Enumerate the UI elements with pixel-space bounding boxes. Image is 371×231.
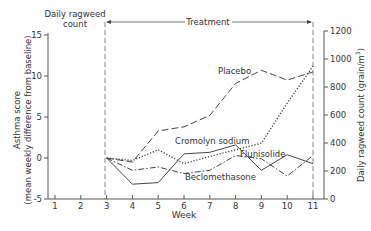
x-tick-label: 4: [130, 201, 135, 211]
ragweed-label-line1: Daily ragweed: [44, 9, 105, 19]
y2-tick-label: 1000: [330, 54, 352, 64]
y-tick-label: 5: [37, 112, 42, 122]
y-label-line2: (mean weekly difference from baseline): [23, 35, 33, 204]
label-beclomethasone: Beclomethasone: [185, 172, 256, 182]
right-y-axis: 020040060080010001200: [324, 26, 352, 204]
treatment-arrow: Treatment: [106, 17, 312, 27]
arrow-left-icon: [106, 20, 111, 24]
ragweed-label-line2: count: [63, 19, 88, 29]
x-tick-label: 7: [207, 201, 212, 211]
y2-tick-label: 600: [330, 110, 346, 120]
y-tick-label: 0: [37, 153, 42, 163]
y2-tick-label: 0: [330, 194, 335, 204]
x-axis: 1234567891011 Week: [48, 195, 324, 220]
y2-label-main: Daily ragweed count (grain/m: [356, 55, 366, 182]
y2-tick-label: 400: [330, 138, 346, 148]
x-tick-label: 3: [104, 201, 109, 211]
svg-text:Daily ragweed count (grain/m3): Daily ragweed count (grain/m3): [354, 48, 366, 182]
label-placebo: Placebo: [218, 66, 251, 76]
x-tick-label: 10: [282, 201, 293, 211]
x-tick-label: 11: [308, 201, 319, 211]
treatment-label: Treatment: [185, 17, 230, 27]
x-tick-label: 8: [233, 201, 238, 211]
x-axis-label: Week: [172, 210, 197, 220]
x-tick-label: 5: [155, 201, 160, 211]
arrow-right-icon: [307, 20, 312, 24]
y-label-line1: Asthma score: [12, 91, 22, 149]
y2-tick-label: 200: [330, 166, 346, 176]
y2-tick-label: 1200: [330, 26, 352, 36]
x-tick-label: 1: [52, 201, 57, 211]
y2-label-end: ): [356, 48, 366, 51]
x-tick-label: 2: [78, 201, 83, 211]
left-y-axis-label: Asthma score (mean weekly difference fro…: [12, 35, 33, 204]
right-y-axis-label: Daily ragweed count (grain/m3): [354, 48, 366, 182]
x-tick-label: 9: [259, 201, 264, 211]
y2-tick-label: 800: [330, 82, 346, 92]
label-cromolyn: Cromolyn sodium: [175, 136, 249, 146]
y-tick-label: -5: [34, 194, 42, 204]
series-lines: [107, 66, 313, 184]
ragweed-period-annotation: Daily ragweed count: [44, 9, 105, 29]
left-y-axis: -5051015: [31, 30, 48, 204]
label-flunisolide: Flunisolide: [240, 149, 285, 159]
asthma-ragweed-chart: -5051015 020040060080010001200 123456789…: [0, 0, 371, 231]
